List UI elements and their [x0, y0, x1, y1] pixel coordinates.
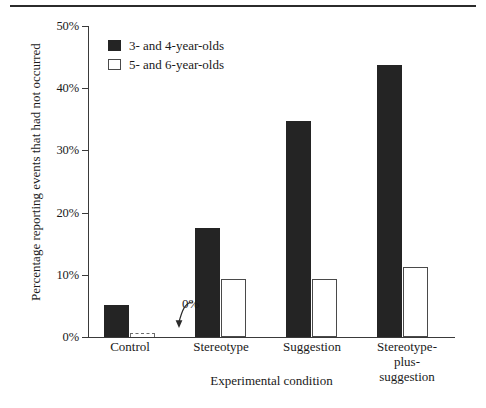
legend-item-3-4-year-olds: 3- and 4-year-olds: [108, 36, 224, 55]
y-tick-label: 40%: [56, 81, 79, 96]
bar-chart-figure: Percentage reporting events that had not…: [0, 0, 486, 408]
y-tick-mark: [82, 275, 88, 276]
bar-suggestion-3-4: [286, 121, 311, 338]
y-tick-label: 50%: [56, 19, 79, 34]
bar-stereotype-plus-suggestion-5-6: [403, 267, 428, 337]
y-axis-line: [88, 26, 89, 338]
y-tick-mark: [82, 213, 88, 214]
legend-swatch-filled-icon: [108, 40, 121, 51]
bar-suggestion-5-6: [312, 279, 337, 338]
x-axis-line: [88, 337, 455, 338]
y-tick-label: 20%: [56, 205, 79, 220]
top-horizontal-rule: [10, 5, 476, 7]
bar-stereotype-3-4: [195, 228, 220, 338]
y-tick-mark: [82, 150, 88, 151]
y-axis-title: Percentage reporting events that had not…: [28, 0, 44, 374]
y-tick-label: 0%: [63, 330, 79, 345]
y-tick-mark: [82, 88, 88, 89]
y-tick-mark: [82, 337, 88, 338]
legend-label-5-6-year-olds: 5- and 6-year-olds: [129, 57, 224, 73]
y-tick-label: 10%: [56, 267, 79, 282]
bar-control-5-6-zero: [130, 333, 155, 337]
x-tick-label-suggestion: Suggestion: [283, 339, 341, 354]
legend-swatch-hollow-icon: [108, 59, 121, 70]
legend-item-5-6-year-olds: 5- and 6-year-olds: [108, 55, 224, 74]
bar-stereotype-5-6: [221, 279, 246, 338]
x-tick-label-stereotype: Stereotype: [193, 339, 249, 354]
legend: 3- and 4-year-olds 5- and 6-year-olds: [108, 36, 224, 74]
y-tick-mark: [82, 26, 88, 27]
x-tick-label-control: Control: [110, 339, 150, 354]
legend-label-3-4-year-olds: 3- and 4-year-olds: [129, 38, 224, 54]
bar-stereotype-plus-suggestion-3-4: [377, 65, 402, 337]
zero-annotation-arrow-icon: [152, 297, 194, 333]
bar-control-3-4: [104, 305, 129, 337]
x-axis-title: Experimental condition: [88, 373, 455, 389]
y-tick-label: 30%: [56, 143, 79, 158]
